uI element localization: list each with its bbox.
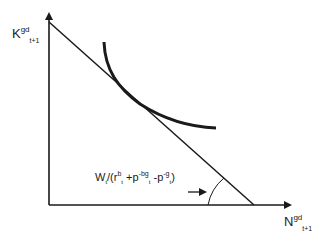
- angle-arc: [208, 178, 224, 205]
- diagram-svg: [0, 0, 318, 238]
- formula-part3-sup: -g: [163, 170, 169, 177]
- y-axis-label-sup: gd: [21, 25, 30, 34]
- formula-part1-sup: b: [117, 170, 121, 177]
- formula-suffix: ): [171, 171, 175, 183]
- x-axis-label-sub: t+1: [302, 225, 312, 232]
- y-axis-label-sub: t+1: [30, 37, 40, 44]
- x-axis-label-sup: gd: [293, 213, 302, 222]
- x-axis-label: Ngdt+1: [284, 214, 312, 232]
- formula-part1: /(r: [107, 171, 117, 183]
- formula-part2: +p: [123, 171, 139, 183]
- y-axis-label-base: K: [12, 26, 21, 41]
- formula-part2-sup: -bg: [139, 170, 149, 177]
- y-axis-label: Kgdt+1: [12, 26, 40, 44]
- diagram-canvas: Kgdt+1 Ngdt+1 Wt/(rbt +p-bgt -p-gt): [0, 0, 318, 238]
- x-axis-label-base: N: [284, 214, 293, 229]
- budget-line-label: Wt/(rbt +p-bgt -p-gt): [95, 170, 175, 185]
- formula-part3: -p: [150, 171, 163, 183]
- indifference-curve: [104, 42, 216, 128]
- formula-wage: W: [95, 171, 105, 183]
